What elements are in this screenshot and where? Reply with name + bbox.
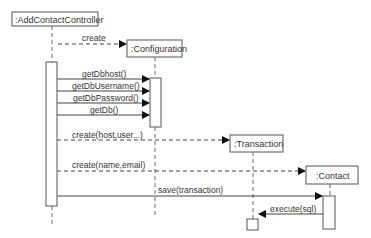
participant-contact: :Contact: [306, 166, 358, 184]
message-label-getdbhost: getDbhost(): [82, 69, 127, 79]
participant-contact-label: :Contact: [316, 171, 350, 181]
participant-transaction-label: :Transaction: [234, 139, 283, 149]
message-label-create-transaction: create(host,user...): [72, 130, 143, 140]
participant-controller-label: :AddContactController: [15, 15, 104, 25]
message-label-execute: execute(sql): [270, 204, 316, 214]
activation-contact: [323, 196, 335, 229]
activation-transaction: [247, 219, 258, 230]
activation-controller: [46, 62, 57, 206]
message-label-create-contact: create(name,email): [72, 160, 145, 170]
message-label-save: save(transaction): [158, 185, 223, 195]
participant-controller: :AddContactController: [12, 12, 104, 26]
participant-configuration: :Configuration: [127, 40, 187, 57]
participant-configuration-label: :Configuration: [131, 44, 187, 54]
message-label-getdbpassword: getDbPassword(): [73, 93, 139, 103]
sequence-diagram: :AddContactController :Configuration :Tr…: [0, 0, 371, 238]
message-label-getdbusername: getDbUsername(): [72, 81, 140, 91]
message-label-create: create: [82, 33, 106, 43]
participant-transaction: :Transaction: [230, 135, 283, 152]
activation-configuration: [150, 78, 161, 127]
message-label-getdb: getDb(): [90, 105, 119, 115]
